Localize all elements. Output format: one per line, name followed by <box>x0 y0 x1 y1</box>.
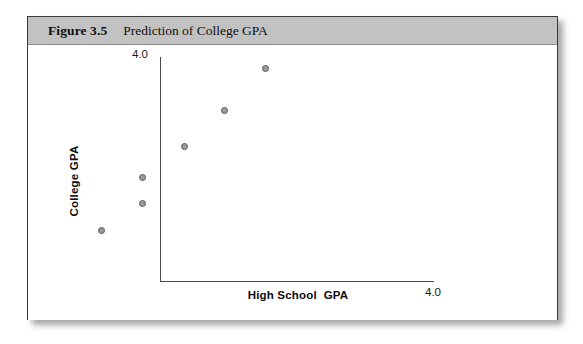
data-point <box>139 174 146 181</box>
data-point <box>139 200 146 207</box>
figure-caption: Prediction of College GPA <box>123 23 268 39</box>
scatter-plot: 4.0 4.0 College GPA High School GPA <box>28 45 557 320</box>
scatter-points-group <box>28 45 557 320</box>
figure-number-label: Figure 3.5 <box>48 23 107 39</box>
figure-header: Figure 3.5 Prediction of College GPA <box>28 17 557 45</box>
data-point <box>262 65 269 72</box>
data-point <box>221 107 228 114</box>
data-point <box>181 143 188 150</box>
data-point <box>98 227 105 234</box>
figure-frame: Figure 3.5 Prediction of College GPA 4.0… <box>27 16 558 320</box>
